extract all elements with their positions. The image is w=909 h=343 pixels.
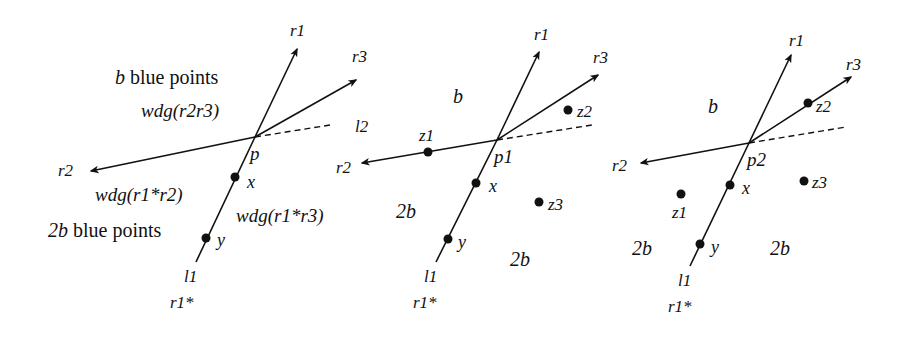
label-r1: r1 bbox=[290, 21, 305, 40]
label-z1: z1 bbox=[418, 126, 434, 145]
text-wdg-r1star-r2: wdg(r1*r2) bbox=[95, 184, 183, 206]
point-x bbox=[231, 173, 240, 182]
point-z1 bbox=[677, 190, 686, 199]
label-l2: l2 bbox=[355, 117, 369, 136]
region-2b-left: 2b bbox=[632, 237, 652, 259]
dashed-line-l2 bbox=[497, 125, 592, 140]
label-r3: r3 bbox=[593, 48, 608, 67]
label-x: x bbox=[488, 176, 497, 196]
label-p: p bbox=[248, 143, 260, 164]
text-wdg-r1star-r3: wdg(r1*r3) bbox=[236, 205, 324, 227]
line-l1 bbox=[196, 137, 255, 262]
region-2b-right: 2b bbox=[770, 237, 790, 259]
label-z2: z2 bbox=[815, 97, 832, 116]
ray-r2 bbox=[91, 137, 255, 171]
point-x bbox=[472, 179, 481, 188]
label-l1: l1 bbox=[184, 267, 197, 286]
dashed-line-l2 bbox=[749, 127, 846, 143]
label-r3: r3 bbox=[352, 47, 367, 66]
label-p1: p1 bbox=[492, 146, 513, 167]
label-y: y bbox=[215, 230, 225, 250]
point-x bbox=[726, 181, 735, 190]
region-2b-left: 2b bbox=[396, 200, 416, 222]
label-y: y bbox=[709, 237, 719, 257]
point-y bbox=[444, 235, 453, 244]
point-y bbox=[202, 234, 211, 243]
label-r2: r2 bbox=[612, 156, 628, 175]
region-2b-right: 2b bbox=[510, 248, 530, 270]
label-r2: r2 bbox=[58, 161, 74, 180]
region-b: b bbox=[453, 85, 463, 107]
label-r1-star: r1* bbox=[668, 297, 692, 316]
text-wdg-r2r3: wdg(r2r3) bbox=[141, 100, 219, 122]
point-z3 bbox=[800, 177, 809, 186]
text-b-blue-points: b blue points bbox=[115, 66, 219, 89]
label-r3: r3 bbox=[846, 55, 861, 74]
region-b: b bbox=[708, 95, 718, 117]
label-r1: r1 bbox=[789, 31, 804, 50]
label-z1: z1 bbox=[671, 203, 687, 222]
point-z1 bbox=[424, 148, 433, 157]
label-l1: l1 bbox=[424, 267, 437, 286]
ray-r2 bbox=[641, 143, 749, 163]
label-l1: l1 bbox=[678, 271, 691, 290]
label-y: y bbox=[456, 232, 466, 252]
wedge-diagram: r1 r3 r2 l2 p x y l1 r1* b blue points w… bbox=[0, 0, 909, 343]
label-z3: z3 bbox=[811, 173, 827, 192]
panel-2: r1 r3 r2 p1 x y z1 z2 z3 l1 r1* b 2b 2b bbox=[336, 25, 608, 312]
point-z2 bbox=[564, 106, 573, 115]
label-z3: z3 bbox=[547, 195, 563, 214]
label-r1: r1 bbox=[534, 25, 549, 44]
panel-3: r1 r3 r2 p2 x y z1 z2 z3 l1 r1* b 2b 2b bbox=[612, 31, 861, 316]
line-l1 bbox=[436, 140, 497, 262]
label-x: x bbox=[741, 178, 750, 198]
panel-1: r1 r3 r2 l2 p x y l1 r1* b blue points w… bbox=[48, 21, 369, 312]
point-y bbox=[696, 240, 705, 249]
label-r1-star: r1* bbox=[413, 293, 437, 312]
label-r1-star: r1* bbox=[170, 293, 194, 312]
point-z3 bbox=[535, 198, 544, 207]
label-x: x bbox=[246, 172, 255, 192]
label-r2: r2 bbox=[336, 158, 352, 177]
ray-r1 bbox=[255, 49, 297, 137]
figure-canvas: r1 r3 r2 l2 p x y l1 r1* b blue points w… bbox=[0, 0, 909, 343]
point-z2 bbox=[804, 99, 813, 108]
text-2b-blue-points: 2b blue points bbox=[48, 219, 162, 242]
label-p2: p2 bbox=[745, 149, 767, 170]
label-z2: z2 bbox=[576, 102, 593, 121]
